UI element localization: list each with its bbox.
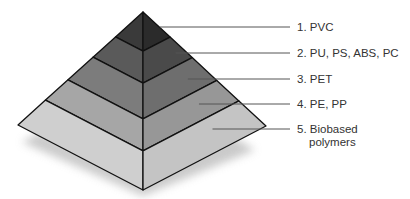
tier-label-2: 2. PU, PS, ABS, PC — [297, 47, 399, 60]
tier-label-5: 5. Biobased polymers — [297, 123, 358, 149]
tier-label-4: 4. PE, PP — [297, 98, 347, 111]
tier-label-3: 3. PET — [297, 73, 332, 86]
pyramid-faces — [18, 12, 266, 190]
tier-label-1: 1. PVC — [297, 21, 333, 34]
pyramid-diagram: 1. PVC 2. PU, PS, ABS, PC 3. PET 4. PE, … — [0, 0, 410, 199]
pyramid-graphic — [0, 0, 410, 199]
